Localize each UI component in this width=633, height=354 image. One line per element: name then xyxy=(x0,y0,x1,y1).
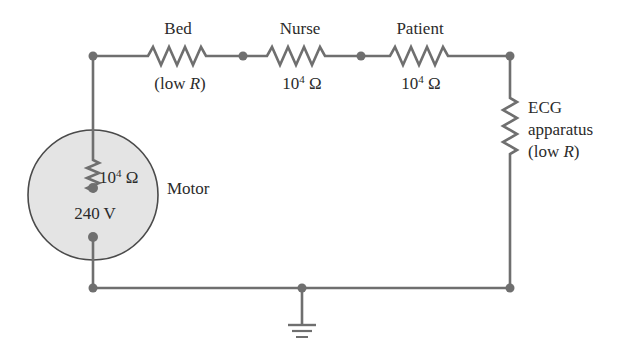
nurse-value: 104 Ω xyxy=(282,75,321,93)
patient-value: 104 Ω xyxy=(401,75,440,93)
ecg-label-line2: apparatus xyxy=(528,121,593,139)
motor-resistance-base: 10 xyxy=(99,168,116,187)
motor-label: Motor xyxy=(167,180,210,198)
nurse-label: Nurse xyxy=(280,20,321,38)
top-wire xyxy=(93,47,243,65)
motor-resistance: 104 Ω xyxy=(99,169,138,187)
nurse-value-base: 10 xyxy=(282,74,299,93)
patient-value-base: 10 xyxy=(401,74,418,93)
bed-value-suffix: ) xyxy=(200,74,206,93)
nurse-wire xyxy=(243,47,361,65)
ecg-wire xyxy=(503,56,517,288)
patient-wire xyxy=(361,47,510,65)
motor-voltage: 240 V xyxy=(74,205,116,223)
ecg-label: ECG xyxy=(528,99,562,117)
ecg-value: (low R) xyxy=(528,143,579,161)
ground-icon xyxy=(288,325,316,337)
ecg-value-suffix: ) xyxy=(574,142,580,161)
nurse-value-unit: Ω xyxy=(305,74,322,93)
bed-value-prefix: (low xyxy=(154,74,189,93)
bed-value: (low R) xyxy=(154,75,205,93)
patient-label: Patient xyxy=(396,20,443,38)
ecg-value-var: R xyxy=(563,142,573,161)
bed-label: Bed xyxy=(164,20,191,38)
circuit-diagram xyxy=(0,0,633,354)
motor-resistance-unit: Ω xyxy=(122,168,139,187)
patient-value-unit: Ω xyxy=(424,74,441,93)
ecg-value-prefix: (low xyxy=(528,142,563,161)
bed-value-var: R xyxy=(190,74,200,93)
